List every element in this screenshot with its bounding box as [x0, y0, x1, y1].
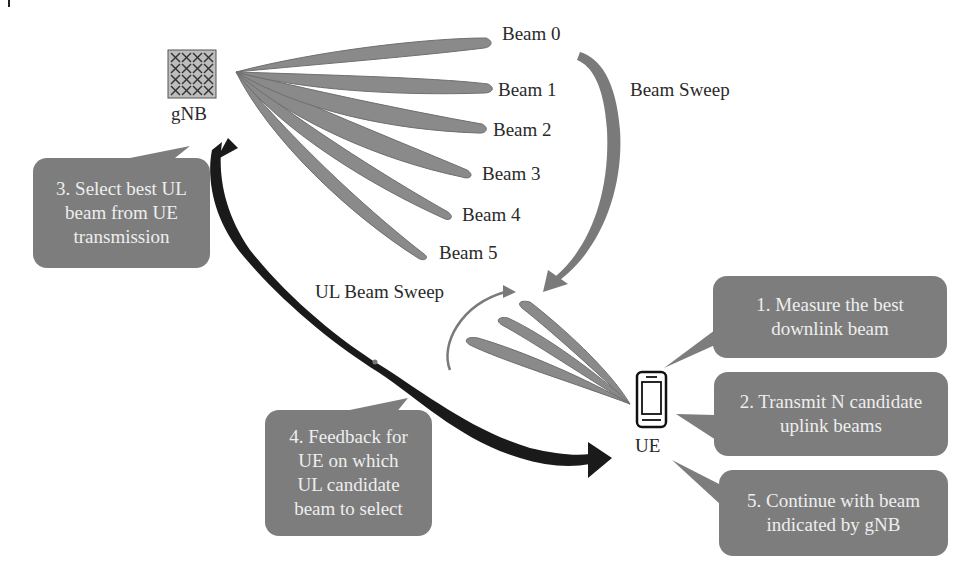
- callout-step1-text: 1. Measure the best downlink beam: [713, 276, 947, 358]
- beam-4-label: Beam 4: [462, 205, 521, 224]
- ue-beam-c: [520, 301, 630, 404]
- callout-step4-line: UL candidate: [289, 473, 408, 497]
- callout-step4-line: beam to select: [289, 497, 408, 521]
- beam-0-label: Beam 0: [502, 24, 561, 43]
- callout-step5-line: 5. Continue with beam: [747, 489, 920, 513]
- callout-step4-text: 4. Feedback for UE on which UL candidate…: [265, 410, 432, 536]
- callout-step1-line: 1. Measure the best: [756, 293, 904, 317]
- callout-step1-line: downlink beam: [756, 317, 904, 341]
- callout-step5-line: indicated by gNB: [747, 513, 920, 537]
- antenna-array-icon: [168, 50, 216, 98]
- beam-5-label: Beam 5: [439, 243, 498, 262]
- beam-3-label: Beam 3: [482, 164, 541, 183]
- gnb-beam-fan: [236, 38, 492, 260]
- ul-beam-sweep-label: UL Beam Sweep: [315, 282, 444, 301]
- callout-step2-line: 2. Transmit N candidate: [740, 390, 923, 414]
- callout-step3-text: 3. Select best UL beam from UE transmiss…: [33, 158, 210, 268]
- callout-step3-line: 3. Select best UL: [56, 177, 187, 201]
- ue-beam-fan: [466, 301, 630, 404]
- mobile-phone-icon: [637, 372, 666, 427]
- beam-1-label: Beam 1: [498, 80, 557, 99]
- callout-step4-line: UE on which: [289, 449, 408, 473]
- callout-step5-text: 5. Continue with beam indicated by gNB: [719, 470, 948, 556]
- beam-0-lobe: [236, 38, 491, 72]
- callout-step2-line: uplink beams: [740, 414, 923, 438]
- callout-step4-line: 4. Feedback for: [289, 425, 408, 449]
- beam-sweep-label: Beam Sweep: [630, 80, 730, 99]
- callout-step3-line: transmission: [56, 225, 187, 249]
- gnb-label: gNB: [171, 104, 207, 123]
- callout-step2-text: 2. Transmit N candidate uplink beams: [714, 372, 948, 456]
- beam-2-label: Beam 2: [493, 120, 552, 139]
- callout-step3-line: beam from UE: [56, 201, 187, 225]
- ue-label: UE: [635, 436, 660, 455]
